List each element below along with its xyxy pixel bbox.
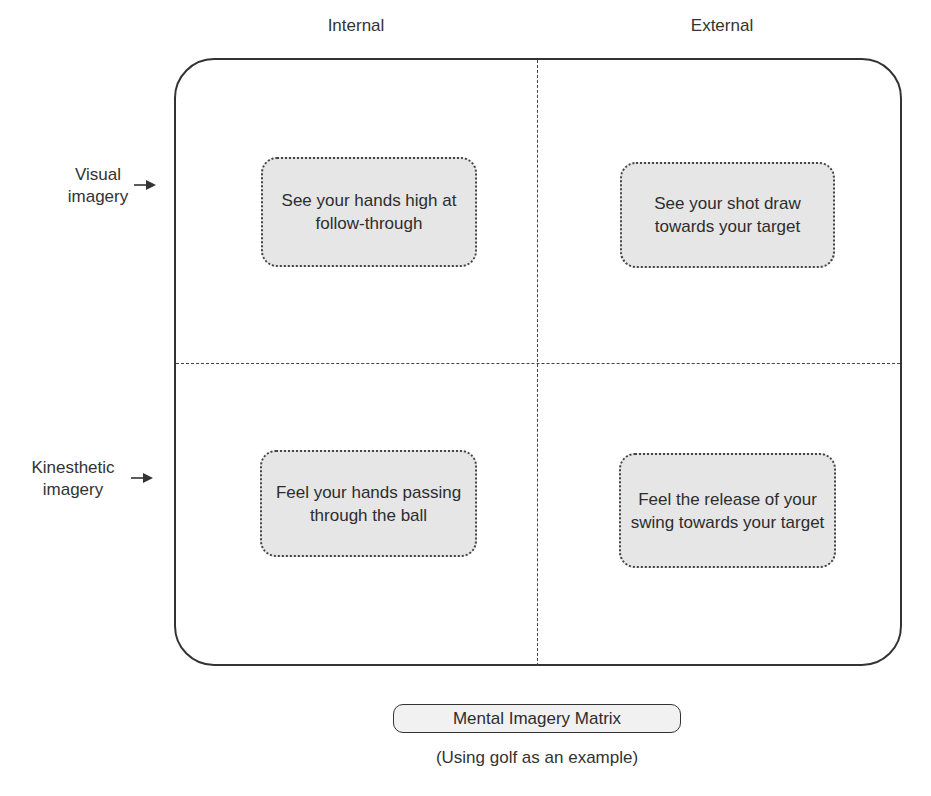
cell-visual-internal: See your hands high at follow-through	[261, 157, 477, 267]
cell-kinesthetic-external: Feel the release of your swing towards y…	[619, 453, 836, 568]
row-label-kinesthetic-line1: Kinesthetic	[13, 457, 133, 479]
right-arrow-icon	[131, 473, 153, 483]
row-label-kinesthetic-line2: imagery	[13, 479, 133, 501]
right-arrow-icon	[134, 180, 156, 190]
matrix-frame	[174, 58, 902, 666]
cell-visual-external: See your shot draw towards your target	[620, 162, 835, 268]
caption-subtitle: (Using golf as an example)	[380, 748, 694, 768]
column-label-external: External	[652, 16, 792, 36]
caption-title: Mental Imagery Matrix	[393, 704, 681, 733]
cell-kinesthetic-internal: Feel your hands passing through the ball	[260, 450, 477, 557]
horizontal-divider	[176, 363, 900, 364]
row-label-kinesthetic: Kinesthetic imagery	[13, 457, 133, 501]
column-label-internal: Internal	[286, 16, 426, 36]
